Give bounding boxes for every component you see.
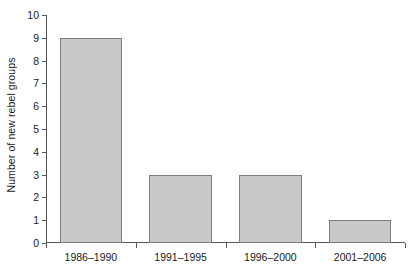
x-axis-tick bbox=[315, 243, 316, 248]
y-axis-tick-label: 1 bbox=[22, 215, 39, 226]
bar bbox=[149, 175, 211, 243]
x-axis-tick-label: 2001–2006 bbox=[315, 252, 405, 263]
y-axis-title-label: Number of new rebel groups bbox=[5, 57, 17, 192]
y-axis-tick-label: 0 bbox=[22, 238, 39, 249]
y-axis-tick-label: 10 bbox=[22, 10, 39, 21]
bar bbox=[329, 220, 391, 243]
bar-chart: Number of new rebel groups 012345678910 … bbox=[0, 0, 420, 279]
x-axis-tick-label: 1996–2000 bbox=[226, 252, 316, 263]
y-axis-title: Number of new rebel groups bbox=[0, 0, 22, 250]
bar bbox=[60, 38, 122, 243]
x-axis-tick bbox=[136, 243, 137, 248]
y-axis-tick-label: 4 bbox=[22, 147, 39, 158]
y-axis-tick-label: 7 bbox=[22, 78, 39, 89]
y-axis-tick-label: 9 bbox=[22, 33, 39, 44]
x-axis-tick-label: 1991–1995 bbox=[136, 252, 226, 263]
x-axis-tick bbox=[46, 243, 47, 248]
y-axis-tick-label: 5 bbox=[22, 124, 39, 135]
x-axis-tick bbox=[226, 243, 227, 248]
y-axis-tick-label: 3 bbox=[22, 169, 39, 180]
y-axis-tick-label: 6 bbox=[22, 101, 39, 112]
x-axis-tick bbox=[405, 243, 406, 248]
x-axis-tick-label: 1986–1990 bbox=[46, 252, 136, 263]
y-axis-tick-label: 2 bbox=[22, 192, 39, 203]
bar bbox=[239, 175, 301, 243]
y-axis-tick-label: 8 bbox=[22, 55, 39, 66]
